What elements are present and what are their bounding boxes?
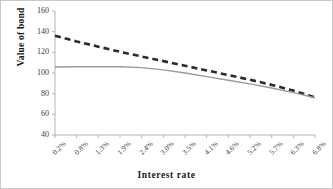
- y-axis-title-wrap: Value of bond: [10, 0, 24, 96]
- series-line-discount-bond: [55, 67, 315, 98]
- y-tick-label: 60: [23, 110, 49, 118]
- y-tick-label: 40: [23, 131, 49, 139]
- y-tick-label: 160: [23, 7, 49, 15]
- y-axis-title: Value of bond: [16, 8, 26, 67]
- y-tick-label: 120: [23, 48, 49, 56]
- y-tick-label: 100: [23, 69, 49, 77]
- y-tick-label: 80: [23, 90, 49, 98]
- bond-value-chart: 160140120100806040 0.2%0.8%1.3%1.9%2.4%3…: [0, 0, 333, 189]
- y-tick-label: 140: [23, 28, 49, 36]
- x-axis-title: Interest rate: [0, 170, 333, 180]
- data-series: [55, 36, 315, 98]
